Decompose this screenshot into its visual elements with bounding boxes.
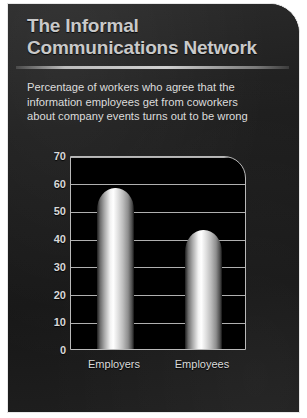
y-axis-tick-label: 20 xyxy=(16,290,66,301)
y-axis-tick-label: 50 xyxy=(16,206,66,217)
x-axis: EmployersEmployees xyxy=(70,358,246,376)
y-axis: 010203040506070 xyxy=(12,156,66,350)
panel-title-line-2: Communications Network xyxy=(27,37,285,59)
bar-employees xyxy=(185,230,222,349)
y-axis-tick-label: 40 xyxy=(16,234,66,245)
panel-title-line-1: The Informal xyxy=(27,15,285,37)
panel-subtitle: Percentage of workers who agree that the… xyxy=(27,80,285,124)
subtitle-line-1: Percentage of workers who agree that the xyxy=(27,80,285,95)
x-axis-label-employers: Employers xyxy=(64,358,164,371)
y-axis-tick-label: 30 xyxy=(16,262,66,273)
chart-panel: The Informal Communications Network Perc… xyxy=(7,3,300,413)
subtitle-line-2: information employees get from coworkers xyxy=(27,95,285,110)
y-axis-tick-label: 60 xyxy=(16,179,66,190)
gridline xyxy=(71,184,245,185)
x-axis-label-employees: Employees xyxy=(152,358,252,371)
bar-employers xyxy=(97,188,134,349)
panel-header: The Informal Communications Network xyxy=(8,4,299,58)
y-axis-tick-label: 10 xyxy=(16,317,66,328)
y-axis-tick-label: 70 xyxy=(16,151,66,162)
plot-area xyxy=(70,156,246,350)
y-axis-tick-label: 0 xyxy=(16,345,66,356)
title-divider xyxy=(16,66,289,69)
gridline xyxy=(71,157,245,158)
bar-chart: 010203040506070 EmployersEmployees xyxy=(8,144,300,406)
subtitle-line-3: about company events turns out to be wro… xyxy=(27,109,285,124)
